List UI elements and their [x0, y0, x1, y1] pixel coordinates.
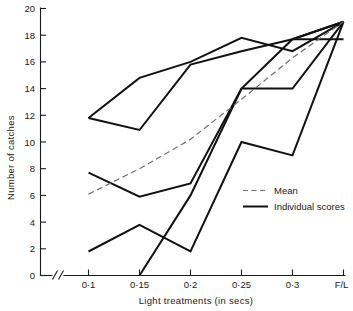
series-line-individual-1b: [89, 22, 344, 118]
chart-figure: 20 18 16 14 12 10 8 6 4 2 0 0·1 0·15 0·2…: [0, 0, 353, 311]
series-line-mean: [89, 22, 344, 194]
chart-legend: Mean Individual scores: [243, 185, 345, 212]
series-line-individual-2: [89, 22, 344, 130]
y-tick-label-14: 14: [24, 83, 35, 94]
series-line-individual-5: [140, 22, 344, 276]
y-tick-marks: [41, 9, 47, 276]
legend-label-mean: Mean: [274, 185, 298, 196]
y-tick-label-18: 18: [24, 30, 35, 41]
y-axis-title: Number of catches: [5, 115, 16, 200]
x-tick-labels: 0·1 0·15 0·2 0·25 0·3 F/L: [82, 279, 349, 290]
x-tick-label-2: 0·2: [184, 279, 198, 290]
line-chart: 20 18 16 14 12 10 8 6 4 2 0 0·1 0·15 0·2…: [0, 0, 353, 311]
legend-label-individual: Individual scores: [274, 201, 345, 212]
y-tick-label-6: 6: [30, 190, 35, 201]
y-tick-label-16: 16: [24, 56, 35, 67]
axis-break-icon: [53, 271, 64, 280]
axis-group: [41, 8, 346, 280]
y-tick-label-0: 0: [30, 270, 35, 281]
y-tick-label-10: 10: [24, 137, 35, 148]
y-tick-label-20: 20: [24, 3, 35, 14]
x-tick-label-5: F/L: [335, 279, 349, 290]
x-tick-marks: [89, 270, 344, 276]
x-tick-label-1: 0·15: [130, 279, 149, 290]
y-tick-labels: 20 18 16 14 12 10 8 6 4 2 0: [24, 3, 35, 281]
y-tick-label-2: 2: [30, 243, 35, 254]
series-individual-scores: [89, 22, 344, 276]
x-tick-label-4: 0·3: [286, 279, 300, 290]
y-tick-label-8: 8: [30, 163, 35, 174]
y-tick-label-4: 4: [30, 217, 35, 228]
x-axis-title: Light treatments (in secs): [139, 295, 253, 306]
series-line-individual-3: [89, 22, 344, 197]
x-tick-label-0: 0·1: [82, 279, 96, 290]
x-tick-label-3: 0·25: [232, 279, 251, 290]
y-tick-label-12: 12: [24, 110, 35, 121]
